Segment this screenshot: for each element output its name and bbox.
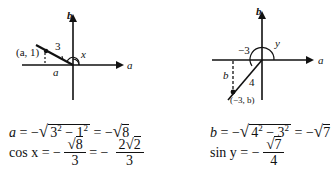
- eq-lhs: cos x: [9, 145, 38, 161]
- left-point: [44, 49, 48, 53]
- fraction: 2√2 3: [116, 137, 144, 168]
- eq-sign: = −: [42, 145, 61, 161]
- left-b-axis-label: b: [67, 9, 73, 21]
- right-equation-2: sin y = − √7 4: [210, 137, 284, 168]
- fraction: √7 4: [263, 137, 284, 168]
- right-b-axis-label: b: [256, 5, 262, 17]
- eq-sign: = −: [240, 145, 259, 161]
- numerator-radicand: 2: [134, 136, 141, 152]
- right-vertical-leg-label: b: [223, 69, 229, 81]
- right-horizontal-leg-label: −3: [238, 44, 250, 56]
- numerator-radicand: 8: [76, 136, 83, 152]
- exponent: 2: [84, 123, 89, 133]
- coefficient: 2: [119, 137, 126, 152]
- left-angle-label: x: [80, 48, 86, 60]
- eq-sign: = −: [295, 125, 314, 140]
- left-hypotenuse-label: 3: [55, 40, 61, 52]
- fraction: √8 3: [64, 137, 85, 168]
- right-angle-label: y: [274, 37, 280, 49]
- left-diagram: b a (a, 1) 3 x a: [16, 9, 133, 100]
- right-a-axis-label: a: [318, 54, 324, 66]
- denominator: 3: [72, 153, 79, 168]
- left-a-axis-label: a: [127, 59, 133, 71]
- left-equation-2: cos x = − √8 3 = − 2√2 3: [9, 137, 144, 168]
- result-radicand: 7: [323, 124, 330, 140]
- eq-sign: = −: [89, 145, 108, 161]
- eq-lhs: sin y: [210, 145, 237, 161]
- exponent: 2: [285, 123, 290, 133]
- left-point-label: (a, 1): [16, 46, 40, 59]
- denominator: 3: [126, 153, 133, 168]
- left-leg-label: a: [53, 66, 59, 78]
- sqrt-symbol: √: [67, 136, 75, 152]
- right-hypotenuse-label: 4: [249, 76, 255, 88]
- sqrt-symbol: √: [126, 136, 134, 152]
- denominator: 4: [270, 153, 277, 168]
- numerator-radicand: 7: [274, 136, 281, 152]
- right-point-label: (−3, b): [230, 95, 255, 105]
- right-diagram: b a −3 y b 4 (−3, b): [212, 5, 324, 105]
- right-point: [231, 90, 236, 95]
- sqrt-symbol: √: [314, 122, 323, 141]
